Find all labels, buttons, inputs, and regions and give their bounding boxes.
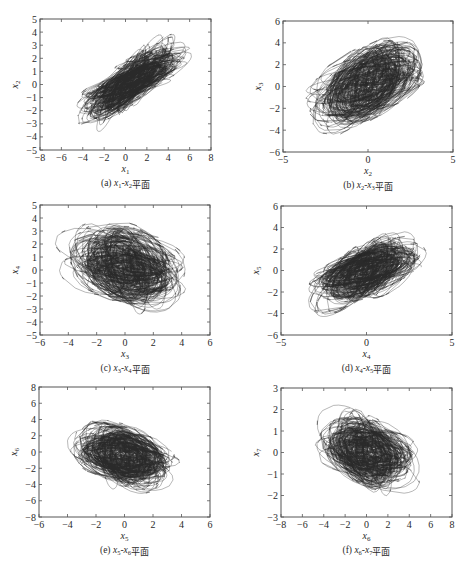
- panel-a: −8−6−4−202468−5−4−3−2−1012345x1x2(a) x1-…: [9, 14, 214, 191]
- y-tick-label: 0: [273, 265, 278, 276]
- x-tick-label: 6: [187, 152, 192, 163]
- axis-label: x2: [9, 80, 22, 89]
- y-tick-label: −6: [267, 330, 278, 341]
- y-tick-label: −8: [25, 512, 36, 523]
- x-tick-label: −6: [56, 152, 67, 163]
- panel-b: −505−6−4−20246x2x3(b) x2-x3平面: [252, 16, 456, 193]
- y-tick-label: −2: [269, 103, 280, 114]
- x-tick-label: 0: [123, 152, 128, 163]
- x-tick-label: 5: [451, 154, 456, 165]
- y-tick-label: 2: [273, 404, 278, 415]
- x-tick-label: 6: [208, 519, 213, 530]
- x-tick-label: −4: [77, 152, 88, 163]
- panel-caption: (d) x4-x5平面: [342, 363, 392, 375]
- panel-f: −8−6−4−202468−3−2−10123x6x7(f) x6-x7平面: [250, 383, 455, 558]
- y-tick-label: 4: [275, 37, 280, 48]
- panel-caption: (a) x1-x2平面: [101, 178, 150, 190]
- x-tick-label: 0: [366, 154, 371, 165]
- panel-e: −6−4−20246−8−6−4−202468x5x6(e) x5-x6平面: [8, 382, 213, 558]
- y-tick-label: 8: [31, 382, 36, 393]
- x-tick-label: 6: [428, 519, 433, 530]
- y-tick-label: 3: [32, 40, 37, 51]
- trajectory: [77, 34, 191, 131]
- y-tick-label: −4: [26, 317, 37, 328]
- panel-c: −6−4−20246−5−4−3−2−1012345x3x4(c) x3-x4平…: [9, 200, 213, 376]
- x-tick-label: 2: [144, 152, 149, 163]
- y-tick-label: −6: [269, 147, 280, 158]
- x-tick-label: −4: [62, 519, 73, 530]
- x-tick-label: −2: [99, 152, 110, 163]
- figure-canvas: −8−6−4−202468−5−4−3−2−1012345x1x2(a) x1-…: [0, 0, 467, 565]
- panel-caption: (b) x2-x3平面: [343, 180, 393, 192]
- x-tick-label: 8: [450, 519, 455, 530]
- y-tick-label: 0: [32, 265, 37, 276]
- x-tick-label: 0: [122, 519, 127, 530]
- y-tick-label: −2: [26, 105, 37, 116]
- y-tick-label: 6: [273, 201, 278, 212]
- y-tick-label: 4: [273, 222, 278, 233]
- axes-frame: [281, 388, 452, 517]
- x-tick-label: 5: [450, 337, 455, 348]
- y-tick-label: 2: [275, 59, 280, 70]
- x-tick-label: 4: [179, 519, 184, 530]
- x-tick-label: 6: [208, 337, 213, 348]
- axis-label: x3: [252, 82, 265, 91]
- y-tick-label: −2: [26, 291, 37, 302]
- y-tick-label: 2: [273, 244, 278, 255]
- y-tick-label: −4: [25, 479, 36, 490]
- y-tick-label: 4: [31, 414, 36, 425]
- y-tick-label: 0: [32, 79, 37, 90]
- axis-label: x2: [363, 165, 372, 178]
- y-tick-label: −1: [267, 469, 278, 480]
- axis-label: x4: [9, 266, 22, 275]
- x-tick-label: −6: [297, 519, 308, 530]
- x-tick-label: −2: [91, 519, 102, 530]
- y-tick-label: −4: [269, 125, 280, 136]
- axis-label: x4: [362, 348, 371, 361]
- y-tick-label: −2: [267, 287, 278, 298]
- x-tick-label: 4: [407, 519, 412, 530]
- panel-caption: (e) x5-x6平面: [100, 545, 149, 557]
- y-tick-label: 0: [275, 81, 280, 92]
- y-tick-label: 1: [32, 66, 37, 77]
- panel-caption: (c) x3-x4平面: [100, 363, 149, 375]
- y-tick-label: −2: [25, 463, 36, 474]
- x-tick-label: 4: [179, 337, 184, 348]
- y-tick-label: −3: [26, 118, 37, 129]
- y-tick-label: −6: [25, 495, 36, 506]
- y-tick-label: 6: [31, 398, 36, 409]
- y-tick-label: 2: [32, 53, 37, 64]
- axis-label: x5: [250, 266, 263, 275]
- trajectory: [306, 37, 424, 135]
- y-tick-label: −1: [26, 92, 37, 103]
- trajectory: [68, 420, 180, 493]
- axis-label: x3: [120, 348, 129, 361]
- axis-label: x6: [8, 448, 21, 457]
- y-tick-label: −4: [26, 131, 37, 142]
- y-tick-label: 5: [32, 14, 37, 25]
- y-tick-label: −3: [267, 512, 278, 523]
- x-tick-label: −2: [340, 519, 351, 530]
- x-tick-label: 2: [151, 519, 156, 530]
- y-tick-label: −4: [267, 308, 278, 319]
- y-tick-label: −5: [26, 330, 37, 341]
- y-tick-label: −1: [26, 278, 37, 289]
- x-tick-label: 4: [166, 152, 171, 163]
- y-tick-label: 2: [32, 239, 37, 250]
- y-tick-label: 4: [32, 213, 37, 224]
- x-tick-label: −2: [91, 337, 102, 348]
- x-tick-label: 2: [385, 519, 390, 530]
- y-tick-label: 3: [32, 226, 37, 237]
- panel-caption: (f) x6-x7平面: [343, 545, 391, 557]
- x-tick-label: 0: [123, 337, 128, 348]
- y-tick-label: −3: [26, 304, 37, 315]
- y-tick-label: 4: [32, 27, 37, 38]
- x-tick-label: 0: [364, 337, 369, 348]
- x-tick-label: −4: [318, 519, 329, 530]
- axis-label: x6: [362, 530, 371, 543]
- y-tick-label: 5: [32, 200, 37, 211]
- x-tick-label: 8: [209, 152, 214, 163]
- x-tick-label: −4: [63, 337, 74, 348]
- trajectory: [309, 232, 427, 317]
- y-tick-label: 3: [273, 383, 278, 394]
